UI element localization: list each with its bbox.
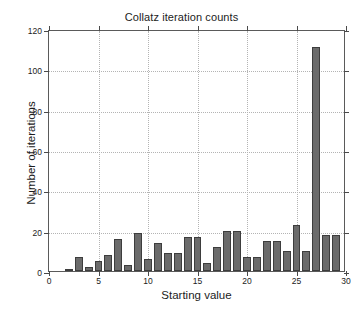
- bar: [273, 241, 281, 271]
- bar: [263, 241, 271, 271]
- y-tick: [44, 152, 49, 153]
- gridline-vertical: [198, 31, 199, 271]
- y-tick-right: [344, 71, 349, 72]
- bar: [85, 267, 93, 271]
- y-tick: [44, 233, 49, 234]
- plot-area: 020406080100120 051015202530: [48, 30, 345, 272]
- bar: [95, 261, 103, 271]
- bar: [184, 237, 192, 271]
- bar: [332, 235, 340, 271]
- x-tick-label: 25: [292, 277, 301, 286]
- y-tick-label: 80: [33, 107, 42, 116]
- x-tick-top: [297, 26, 298, 31]
- x-tick-top: [346, 26, 347, 31]
- bar: [213, 247, 221, 271]
- bar: [223, 231, 231, 271]
- x-tick-label: 20: [242, 277, 251, 286]
- bar: [233, 231, 241, 271]
- bar: [134, 233, 142, 271]
- gridline-horizontal: [49, 152, 344, 153]
- x-tick-top: [148, 26, 149, 31]
- x-tick-label: 30: [341, 277, 350, 286]
- y-tick: [44, 31, 49, 32]
- bar: [174, 253, 182, 271]
- bar: [293, 225, 301, 271]
- bar: [124, 265, 132, 271]
- bar: [253, 257, 261, 271]
- y-tick-right: [344, 152, 349, 153]
- chart-figure: Collatz iteration counts Number of itera…: [0, 0, 363, 313]
- gridline-horizontal: [49, 192, 344, 193]
- bar: [104, 255, 112, 271]
- x-tick-top: [49, 26, 50, 31]
- x-tick-top: [247, 26, 248, 31]
- bar: [154, 243, 162, 271]
- bar: [114, 239, 122, 271]
- y-tick-right: [344, 233, 349, 234]
- bar: [243, 257, 251, 271]
- plot-inner: [49, 31, 344, 271]
- chart-title: Collatz iteration counts: [0, 11, 363, 24]
- bar: [302, 251, 310, 271]
- gridline-horizontal: [49, 71, 344, 72]
- gridline-horizontal: [49, 112, 344, 113]
- x-tick-label: 5: [96, 277, 101, 286]
- x-tick-top: [198, 26, 199, 31]
- bar: [164, 253, 172, 271]
- x-axis-label: Starting value: [48, 288, 345, 302]
- y-tick: [44, 71, 49, 72]
- y-tick-label: 20: [33, 228, 42, 237]
- y-tick-label: 120: [28, 27, 42, 36]
- y-tick-label: 60: [33, 148, 42, 157]
- bar: [75, 257, 83, 271]
- y-tick-label: 0: [37, 269, 42, 278]
- bar: [312, 47, 320, 271]
- x-tick-label: 10: [143, 277, 152, 286]
- bar: [322, 235, 330, 271]
- bar: [65, 269, 73, 271]
- gridline-vertical: [148, 31, 149, 271]
- y-tick-right: [344, 112, 349, 113]
- x-tick-top: [99, 26, 100, 31]
- y-tick-label: 100: [28, 67, 42, 76]
- y-tick-label: 40: [33, 188, 42, 197]
- y-tick: [44, 192, 49, 193]
- x-tick-label: 15: [193, 277, 202, 286]
- bar: [283, 251, 291, 271]
- y-tick-right: [344, 192, 349, 193]
- gridline-vertical: [99, 31, 100, 271]
- gridline-vertical: [247, 31, 248, 271]
- y-tick-right: [344, 31, 349, 32]
- bar: [144, 259, 152, 271]
- bar: [203, 263, 211, 271]
- x-tick-label: 0: [47, 277, 52, 286]
- bar: [194, 237, 202, 271]
- y-tick: [44, 112, 49, 113]
